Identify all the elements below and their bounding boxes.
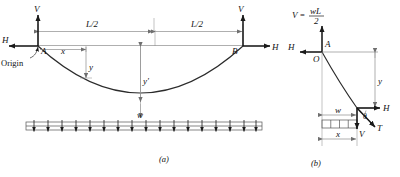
distributed-load-b bbox=[322, 120, 357, 128]
label-reaction-h-left: H bbox=[1, 35, 9, 45]
label-support-a: A bbox=[40, 46, 47, 56]
label-tension-t-b: T bbox=[377, 123, 383, 133]
label-reaction-h-b: H bbox=[287, 42, 295, 52]
label-reaction-v-left: V bbox=[34, 4, 41, 14]
label-coord-x: x bbox=[60, 46, 65, 56]
label-half-span-right: L/2 bbox=[190, 19, 204, 29]
cable-segment-curve bbox=[322, 52, 357, 108]
reaction-formula-b: V = wL 2 bbox=[292, 6, 324, 26]
label-coord-y: y bbox=[88, 62, 93, 72]
label-distributed-load-a: w bbox=[137, 110, 143, 120]
support-a-reactions bbox=[9, 15, 38, 46]
labels-layer: V H A Origin x y y' L/2 L/2 V H B w (a) … bbox=[1, 4, 390, 168]
coord-y-dimension-b bbox=[357, 52, 379, 108]
label-coord-y-b: y bbox=[377, 76, 382, 86]
label-reaction-h-right: H bbox=[271, 42, 279, 52]
figure-svg: V H A Origin x y y' L/2 L/2 V H B w (a) … bbox=[0, 0, 400, 177]
dimension-lines-a bbox=[38, 18, 243, 46]
label-support-b: B bbox=[232, 46, 238, 56]
label-angle-theta-b: θ bbox=[363, 112, 367, 121]
support-b-reactions bbox=[243, 15, 270, 46]
label-origin: Origin bbox=[1, 58, 24, 68]
diagram-b-group bbox=[300, 26, 380, 146]
formula-denominator: 2 bbox=[314, 16, 319, 26]
label-sag-center: y' bbox=[142, 76, 150, 86]
formula-numerator: wL bbox=[310, 6, 321, 16]
label-coord-x-b: x bbox=[335, 129, 340, 139]
engineering-figure: V H A Origin x y y' L/2 L/2 V H B w (a) … bbox=[0, 0, 400, 177]
label-reaction-v-right: V bbox=[238, 4, 245, 14]
caption-b: (b) bbox=[311, 158, 321, 168]
label-h-cut-b: H bbox=[382, 103, 390, 113]
label-distributed-load-b: w bbox=[335, 105, 341, 115]
formula-v: V bbox=[292, 10, 299, 20]
label-shear-v-b: V bbox=[359, 129, 366, 139]
origin-leader bbox=[30, 47, 38, 58]
label-origin-point-b: O bbox=[313, 54, 320, 64]
distributed-load-a bbox=[26, 120, 262, 132]
label-half-span-left: L/2 bbox=[85, 19, 99, 29]
label-support-a-b: A bbox=[324, 39, 331, 49]
formula-equals: = bbox=[300, 10, 305, 20]
caption-a: (a) bbox=[159, 154, 169, 164]
